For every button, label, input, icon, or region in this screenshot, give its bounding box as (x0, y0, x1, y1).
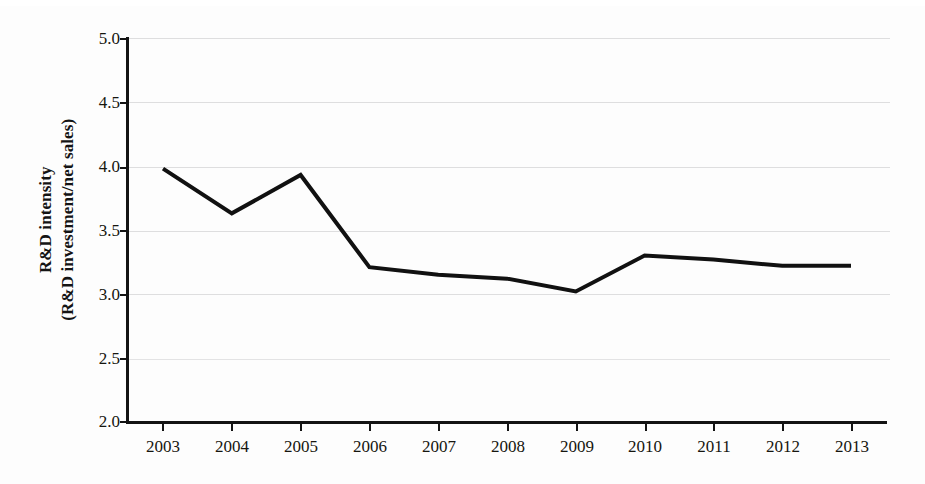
y-tick-label-2-0: 2.0 (74, 412, 120, 432)
gridline-4-0 (128, 167, 890, 168)
y-tick-mark-2-5 (120, 358, 128, 360)
x-tick-label-2009: 2009 (542, 437, 612, 457)
x-tick-label-2012: 2012 (748, 437, 818, 457)
y-tick-label-4-0: 4.0 (74, 157, 120, 177)
y-tick-mark-3-0 (120, 294, 128, 296)
gridline-5-0 (128, 38, 890, 39)
y-tick-label-3-0: 3.0 (74, 285, 120, 305)
y-tick-mark-2-0 (120, 421, 128, 423)
x-tick-mark-2010 (645, 423, 647, 431)
chart-figure: R&D intensity (R&D investment/net sales)… (0, 0, 925, 484)
y-tick-mark-3-5 (120, 230, 128, 232)
x-tick-label-2010: 2010 (610, 437, 680, 457)
y-axis-title-line1: R&D intensity (35, 119, 57, 321)
x-tick-mark-2007 (438, 423, 440, 431)
plot-area (128, 38, 890, 423)
x-tick-label-2011: 2011 (679, 437, 749, 457)
x-tick-mark-2008 (507, 423, 509, 431)
y-tick-mark-4-5 (120, 102, 128, 104)
scan-margin (0, 0, 925, 6)
x-tick-mark-2009 (576, 423, 578, 431)
x-tick-mark-2011 (713, 423, 715, 431)
x-tick-mark-2006 (369, 423, 371, 431)
y-tick-labels: 5.0 4.5 4.0 3.5 3.0 2.5 2.0 (64, 0, 120, 484)
x-tick-mark-2013 (851, 423, 853, 431)
x-tick-mark-2012 (782, 423, 784, 431)
gridline-3-0 (128, 294, 890, 295)
x-tick-label-2007: 2007 (404, 437, 474, 457)
x-tick-label-2008: 2008 (473, 437, 543, 457)
y-tick-mark-4-0 (120, 167, 128, 169)
x-tick-label-2004: 2004 (197, 437, 267, 457)
x-tick-mark-2005 (300, 423, 302, 431)
y-tick-label-5-0: 5.0 (74, 29, 120, 49)
gridline-3-5 (128, 231, 890, 232)
x-tick-mark-2003 (162, 423, 164, 431)
y-tick-label-2-5: 2.5 (74, 349, 120, 369)
gridline-4-5 (128, 102, 890, 103)
y-tick-mark-5-0 (120, 38, 128, 40)
x-tick-label-2006: 2006 (335, 437, 405, 457)
gridline-2-5 (128, 359, 890, 360)
y-tick-label-4-5: 4.5 (74, 93, 120, 113)
x-tick-label-2003: 2003 (128, 437, 198, 457)
y-tick-label-3-5: 3.5 (74, 221, 120, 241)
x-tick-mark-2004 (231, 423, 233, 431)
x-tick-label-2005: 2005 (266, 437, 336, 457)
x-tick-label-2013: 2013 (817, 437, 887, 457)
